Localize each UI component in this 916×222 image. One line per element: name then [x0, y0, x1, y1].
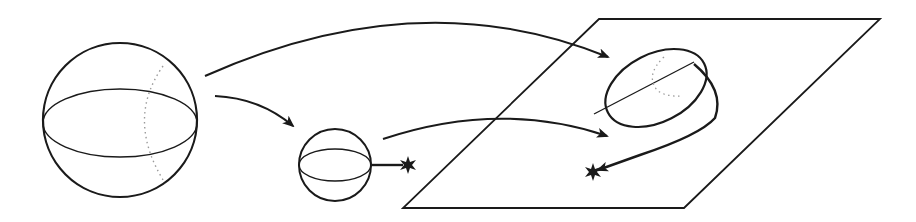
large-sphere-equator — [43, 89, 197, 157]
star-icon — [585, 163, 601, 181]
ellipsoid — [592, 33, 719, 143]
small-sphere — [299, 129, 403, 201]
large-sphere — [43, 43, 197, 197]
large-sphere-meridian-hidden — [144, 66, 165, 183]
loop-curve-arrow — [598, 64, 717, 170]
diagram-svg — [0, 0, 916, 222]
arrow-lower — [383, 119, 607, 139]
small-sphere-equator — [299, 149, 371, 181]
diagram-canvas — [0, 0, 916, 222]
plane — [403, 19, 880, 208]
arrow-middle — [215, 96, 293, 126]
